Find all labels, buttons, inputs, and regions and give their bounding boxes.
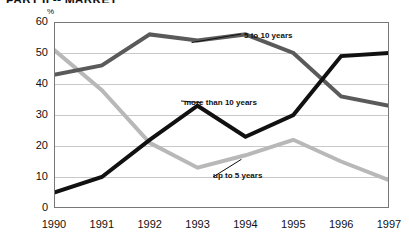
x-axis-tick-1996: 1996 [318,218,364,230]
x-axis-tick-1990: 1990 [31,218,77,230]
x-axis-tick-1992: 1992 [127,218,173,230]
series-label-more-than-10-years: more than 10 years [184,98,257,107]
y-axis-tick-40: 40 [22,78,48,89]
plot-area [54,22,389,208]
y-axis-tick-10: 10 [22,171,48,182]
y-axis-tick-20: 20 [22,140,48,151]
series-lines [54,34,389,192]
y-axis-tick-30: 30 [22,109,48,120]
x-axis-tick-1993: 1993 [175,218,221,230]
series-label-up-to-5-years: up to 5 years [213,171,262,180]
series-label-5-to-10-years: 5 to 10 years [244,31,292,40]
leader-5-to-10-years [192,34,241,43]
figure-title: PART II -- MARKET [6,0,117,3]
chart-svg [54,22,389,208]
y-axis-tick-50: 50 [22,47,48,58]
y-axis-tick-0: 0 [22,202,48,213]
x-axis-tick-1995: 1995 [270,218,316,230]
x-axis-tick-1997: 1997 [366,218,409,230]
y-axis-tick-60: 60 [22,16,48,27]
x-axis-tick-1994: 1994 [222,218,268,230]
x-axis-tick-1991: 1991 [79,218,125,230]
chart-figure: PART II -- MARKET % 6050403020100 199019… [0,0,409,247]
y-axis-unit-label: % [47,7,54,16]
